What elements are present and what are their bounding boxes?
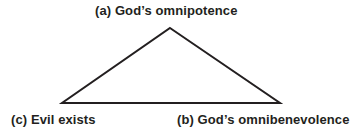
vertex-label-c-evil-exists: (c) Evil exists [11, 112, 96, 127]
triangle-diagram: (a) God’s omnipotence (c) Evil exists (b… [0, 0, 362, 134]
vertex-label-a-omnipotence: (a) God’s omnipotence [95, 3, 237, 18]
vertex-label-b-omnibenevolence: (b) God’s omnibenevolence [177, 112, 349, 127]
triangle-outline [62, 28, 280, 103]
